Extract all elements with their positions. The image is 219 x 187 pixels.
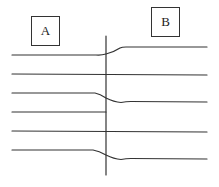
layer-line-2 <box>12 74 207 75</box>
layer-line-3 <box>12 93 207 103</box>
layer-line-6 <box>12 150 207 160</box>
region-label-b-text: B <box>161 14 170 30</box>
layer-line-5 <box>12 131 207 132</box>
region-label-a-text: A <box>41 23 50 39</box>
region-label-a: A <box>31 16 60 46</box>
region-label-b: B <box>151 7 180 37</box>
layer-line-1 <box>12 47 207 55</box>
